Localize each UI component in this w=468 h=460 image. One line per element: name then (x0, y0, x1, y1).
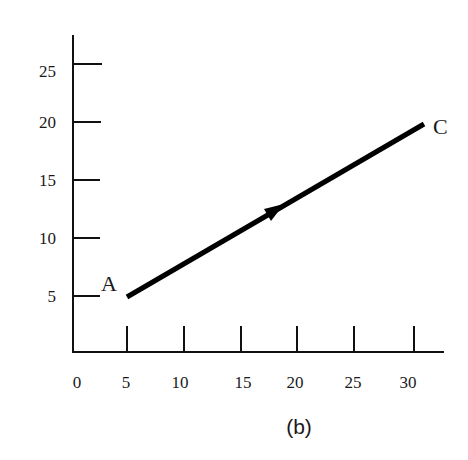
y-tick-label: 25 (39, 62, 56, 81)
y-ticks (73, 64, 102, 296)
y-tick-label: 20 (39, 113, 56, 132)
x-tick-label: 20 (287, 373, 304, 392)
point-label-c: C (433, 114, 448, 139)
x-tick-labels: 0 5 10 15 20 25 30 (73, 373, 417, 392)
x-tick-label: 30 (400, 373, 417, 392)
direction-arrow-icon (264, 204, 284, 221)
x-tick-label: 10 (172, 373, 189, 392)
point-label-a: A (101, 271, 117, 296)
x-tick-label: 5 (122, 373, 131, 392)
y-tick-label: 5 (48, 287, 57, 306)
x-tick-label: 25 (345, 373, 362, 392)
x-tick-label: 0 (73, 373, 82, 392)
y-tick-label: 15 (39, 171, 56, 190)
figure-caption: (b) (286, 415, 312, 438)
y-tick-label: 10 (39, 229, 56, 248)
x-ticks (127, 326, 414, 352)
chart-canvas: 5 10 15 20 25 0 5 10 15 20 25 30 A C (b) (0, 0, 468, 460)
y-tick-labels: 5 10 15 20 25 (39, 62, 56, 306)
x-tick-label: 15 (235, 373, 252, 392)
